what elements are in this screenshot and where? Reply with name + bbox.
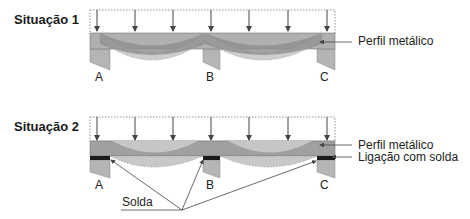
ligacao-solda-callout: Ligação com solda [358, 150, 458, 164]
support-a-label: A [95, 178, 103, 192]
situation-1-diagram [90, 10, 352, 70]
support-a-label: A [95, 70, 103, 84]
perfil-metalico-callout: Perfil metálico [358, 34, 433, 48]
beam-diagram [0, 0, 470, 219]
support-b-label: B [206, 70, 214, 84]
support-b-label: B [206, 178, 214, 192]
solda-label: Solda [122, 195, 153, 209]
support-c-label: C [320, 70, 329, 84]
support-c-label: C [320, 178, 329, 192]
